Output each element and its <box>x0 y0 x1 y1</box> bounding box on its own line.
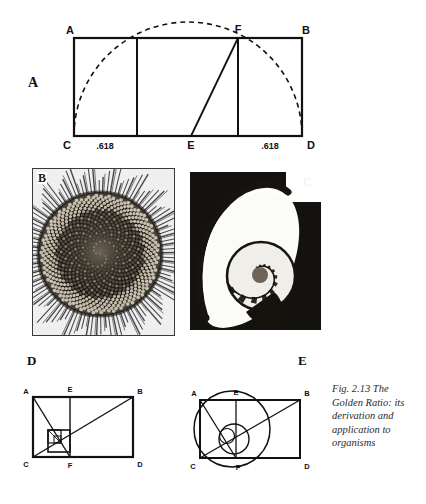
vertex-label-d: D <box>307 139 315 151</box>
rectangle-abdc <box>74 38 302 136</box>
vertex-label-d: D <box>304 462 310 471</box>
caption-line-1: Fig. 2.13 The <box>332 382 424 396</box>
vertex-label-c: C <box>63 139 71 151</box>
vertex-label-f: F <box>235 23 242 35</box>
diagonal-ef <box>191 38 238 136</box>
vertex-label-c: C <box>190 462 196 471</box>
panel-e-construction-diagram: A E B C F D <box>172 382 332 472</box>
sunflower-illustration <box>33 169 174 335</box>
panel-letter-e: E <box>298 354 307 367</box>
panel-letter-c: C <box>303 176 312 188</box>
vertex-label-d: D <box>137 460 143 469</box>
vertex-label-a: A <box>23 387 29 396</box>
measure-label-right: .618 <box>261 141 279 151</box>
panel-d-construction-diagram: A E B C F D <box>10 382 170 472</box>
diagonal-af <box>33 397 70 457</box>
nautilus-illustration <box>190 172 321 330</box>
dashed-semicircle-arc <box>74 22 302 136</box>
figure-caption: Fig. 2.13 The Golden Ratio: its derivati… <box>332 382 424 450</box>
vertex-label-e: E <box>67 385 72 394</box>
vertex-label-e: E <box>187 139 194 151</box>
caption-line-4: application to <box>332 423 424 437</box>
vertex-label-f: F <box>236 463 241 472</box>
panel-b-sunflower-photograph <box>32 168 175 336</box>
vertex-label-c: C <box>23 460 29 469</box>
measure-label-left: .618 <box>96 141 114 151</box>
vertex-label-e: E <box>233 388 238 397</box>
vertex-label-a: A <box>191 389 197 398</box>
panel-letter-d: D <box>27 354 37 367</box>
diagonal-cb <box>200 400 300 458</box>
panel-letter-b: B <box>37 172 47 184</box>
caption-line-5: organisms <box>332 436 424 450</box>
vertex-label-b: B <box>302 24 310 36</box>
vertex-label-a: A <box>66 24 74 36</box>
figure-golden-ratio: A A B C D E F .618 .618 <box>0 0 426 504</box>
nautilus-spiral-chambers <box>226 242 295 310</box>
caption-line-2: Golden Ratio: its <box>332 396 424 410</box>
caption-line-3: derivation and <box>332 409 424 423</box>
vertex-label-b: B <box>137 387 143 396</box>
vertex-label-f: F <box>68 461 73 470</box>
panel-c-nautilus-photograph <box>190 172 321 330</box>
vertex-label-b: B <box>304 389 310 398</box>
panel-a-construction-diagram: A B C D E F .618 .618 <box>0 18 340 153</box>
